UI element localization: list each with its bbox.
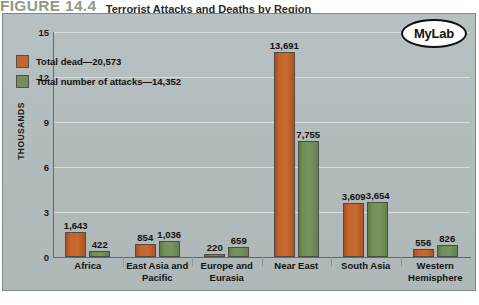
- x-axis-category-line: Europe and: [192, 260, 262, 272]
- category-separator: [262, 257, 263, 267]
- x-axis-category-western-hemisphere: WesternHemisphere: [401, 260, 471, 283]
- x-axis-category-line: Hemisphere: [401, 272, 471, 284]
- bar-value-label: 1,036: [157, 229, 181, 240]
- chart-legend: Total dead—20,573Total number of attacks…: [16, 55, 181, 95]
- y-axis-tick-label: 6: [29, 162, 49, 173]
- legend-item[interactable]: Total number of attacks—14,352: [16, 75, 181, 88]
- bar-value-label: 3,654: [366, 190, 390, 201]
- x-axis-category-line: Eurasia: [192, 272, 262, 284]
- x-axis-category-line: South Asia: [331, 260, 401, 272]
- figure-header: FIGURE 14.4 Terrorist Attacks and Deaths…: [0, 0, 479, 14]
- legend-swatch-attacks: [16, 75, 29, 88]
- bar-value-label: 220: [207, 242, 223, 253]
- bar-dead[interactable]: 3,609: [343, 203, 364, 257]
- category-separator: [331, 257, 332, 267]
- bar-value-label: 826: [439, 233, 455, 244]
- category-separator: [401, 257, 402, 267]
- bar-value-label: 3,609: [342, 191, 366, 202]
- bar-dead[interactable]: 556: [413, 249, 434, 257]
- x-axis-category-line: Western: [401, 260, 471, 272]
- legend-label: Total number of attacks—14,352: [36, 76, 181, 87]
- bar-attacks[interactable]: 7,755: [298, 141, 319, 257]
- x-axis-category-line: East Asia and: [123, 260, 193, 272]
- category-separator: [123, 257, 124, 267]
- chart-panel: MyLab 03691215 THOUSANDS 1,6434228541,03…: [2, 13, 476, 291]
- bar-group: 13,6917,755: [262, 32, 332, 257]
- figure-number: FIGURE 14.4: [0, 0, 96, 14]
- legend-label: Total dead—20,573: [36, 56, 121, 67]
- y-axis-tick-label: 3: [29, 207, 49, 218]
- bar-dead[interactable]: 854: [135, 244, 156, 257]
- y-axis-title: THOUSANDS: [16, 86, 26, 176]
- bar-value-label: 659: [231, 235, 247, 246]
- y-axis-tick-label: 9: [29, 117, 49, 128]
- bar-group: 556826: [401, 32, 471, 257]
- bar-value-label: 13,691: [270, 40, 299, 51]
- x-axis-category-labels: AfricaEast Asia andPacificEurope andEura…: [53, 260, 471, 291]
- category-separator: [192, 257, 193, 267]
- bar-value-label: 7,755: [296, 129, 320, 140]
- legend-swatch-dead: [16, 55, 29, 68]
- bar-group: 220659: [192, 32, 262, 257]
- mylab-badge-label: MyLab: [414, 26, 454, 41]
- x-axis-category-line: Africa: [53, 260, 123, 272]
- bar-attacks[interactable]: 659: [228, 247, 249, 257]
- x-axis-category-africa: Africa: [53, 260, 123, 272]
- x-axis-category-line: Near East: [262, 260, 332, 272]
- bar-dead[interactable]: 1,643: [65, 232, 86, 257]
- x-axis-category-near-east: Near East: [262, 260, 332, 272]
- x-axis-category-east-asia-and-pacific: East Asia andPacific: [123, 260, 193, 283]
- mylab-badge[interactable]: MyLab: [401, 19, 467, 48]
- x-axis-category-south-asia: South Asia: [331, 260, 401, 272]
- y-axis-tick-label: 15: [29, 27, 49, 38]
- bar-attacks[interactable]: 1,036: [159, 241, 180, 257]
- legend-item[interactable]: Total dead—20,573: [16, 55, 181, 68]
- bar-attacks[interactable]: 3,654: [367, 202, 388, 257]
- bar-value-label: 422: [92, 239, 108, 250]
- y-axis-tick-label: 0: [29, 252, 49, 263]
- bar-dead[interactable]: 13,691: [274, 52, 295, 257]
- bar-attacks[interactable]: 826: [437, 245, 458, 257]
- bar-value-label: 1,643: [64, 220, 88, 231]
- bar-value-label: 556: [415, 237, 431, 248]
- x-axis-category-line: Pacific: [123, 272, 193, 284]
- bar-group: 3,6093,654: [331, 32, 401, 257]
- bar-value-label: 854: [137, 232, 153, 243]
- x-axis-category-europe-and-eurasia: Europe andEurasia: [192, 260, 262, 283]
